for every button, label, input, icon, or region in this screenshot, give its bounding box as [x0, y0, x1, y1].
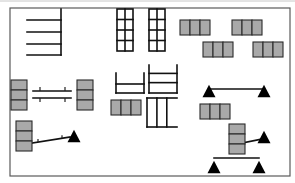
gray-box-cell	[253, 42, 263, 57]
gray-box-cell	[16, 141, 32, 151]
gray-box-group	[232, 20, 262, 35]
gray-box-cell	[180, 20, 190, 35]
layout-diagram	[0, 0, 295, 183]
gray-box-cell	[190, 20, 200, 35]
gray-box-cell	[77, 100, 93, 110]
gray-box-cell	[11, 90, 27, 100]
gray-box-cell	[232, 20, 242, 35]
gray-box-cell	[263, 42, 273, 57]
gray-box-group	[203, 42, 233, 57]
gray-box-group	[253, 42, 283, 57]
diagram-svg	[0, 0, 295, 183]
gray-box-cell	[229, 134, 245, 144]
gray-box-cell	[200, 104, 210, 119]
gray-box-group	[180, 20, 210, 35]
gray-box-cell	[213, 42, 223, 57]
gray-box-cell	[210, 104, 220, 119]
gray-box-cell	[203, 42, 213, 57]
gray-box-cell	[220, 104, 230, 119]
gray-box-cell	[229, 144, 245, 154]
gray-box-cell	[131, 100, 141, 115]
gray-box-cell	[16, 131, 32, 141]
gray-box-cell	[229, 124, 245, 134]
gray-box-cell	[223, 42, 233, 57]
gray-box-group	[77, 80, 93, 110]
gray-box-group	[11, 80, 27, 110]
gray-box-group	[16, 121, 32, 151]
gray-box-cell	[121, 100, 131, 115]
gray-box-cell	[273, 42, 283, 57]
gray-box-group	[111, 100, 141, 115]
gray-box-cell	[77, 80, 93, 90]
gray-box-cell	[11, 80, 27, 90]
gray-box-cell	[111, 100, 121, 115]
gray-box-cell	[77, 90, 93, 100]
gray-box-cell	[242, 20, 252, 35]
gray-box-cell	[11, 100, 27, 110]
gray-box-cell	[200, 20, 210, 35]
gray-box-cell	[252, 20, 262, 35]
gray-box-group	[200, 104, 230, 119]
gray-box-cell	[16, 121, 32, 131]
gray-box-group	[229, 124, 245, 154]
